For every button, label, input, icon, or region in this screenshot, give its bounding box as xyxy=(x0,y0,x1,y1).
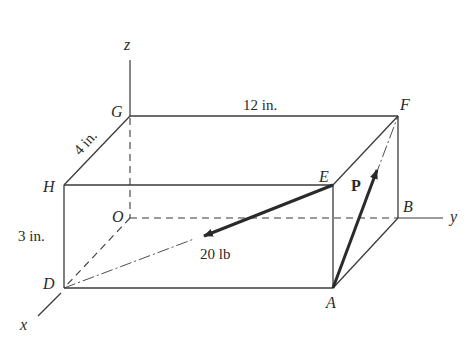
point-O-label: O xyxy=(112,208,124,225)
point-A-label: A xyxy=(325,294,336,311)
force-20lb-arrow xyxy=(204,185,333,236)
x-axis-label: x xyxy=(19,316,27,333)
dimension-depth-label: 4 in. xyxy=(70,127,100,158)
construction-lines xyxy=(64,116,398,288)
edge-A-B xyxy=(333,218,398,288)
hidden-edges xyxy=(64,118,398,288)
y-axis-label: y xyxy=(448,208,458,226)
point-B-label: B xyxy=(403,198,413,215)
box-force-diagram: z y x G F H E O B D A 12 in. 4 in. 3 in.… xyxy=(0,0,472,339)
x-axis-line xyxy=(38,293,61,316)
point-F-label: F xyxy=(399,96,410,113)
point-H-label: H xyxy=(42,178,56,195)
edge-F-E xyxy=(333,116,398,185)
edge-O-D xyxy=(64,218,130,288)
axes xyxy=(38,60,443,316)
line-D-to-20lb xyxy=(64,239,194,288)
dimension-height-label: 3 in. xyxy=(18,228,45,244)
z-axis-label: z xyxy=(123,36,131,53)
point-G-label: G xyxy=(111,103,123,120)
force-P-label: P xyxy=(351,177,361,194)
force-20lb-label: 20 lb xyxy=(200,246,230,262)
box-edges xyxy=(64,116,398,288)
point-E-label: E xyxy=(318,168,329,185)
point-D-label: D xyxy=(42,275,55,292)
dimension-length-label: 12 in. xyxy=(243,97,277,113)
